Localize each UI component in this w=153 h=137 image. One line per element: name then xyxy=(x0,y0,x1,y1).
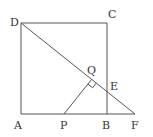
label-c: C xyxy=(108,8,116,21)
label-q: Q xyxy=(87,64,96,77)
label-e: E xyxy=(110,80,118,93)
label-p: P xyxy=(60,119,68,132)
label-d: D xyxy=(10,16,19,29)
segment-pq xyxy=(64,79,92,114)
label-a: A xyxy=(13,119,23,132)
right-angle-mark xyxy=(88,83,96,88)
segment-df xyxy=(21,23,135,114)
label-f: F xyxy=(131,119,139,132)
geometry-diagram: D C A P B F Q E xyxy=(0,0,153,137)
label-b: B xyxy=(102,119,110,132)
